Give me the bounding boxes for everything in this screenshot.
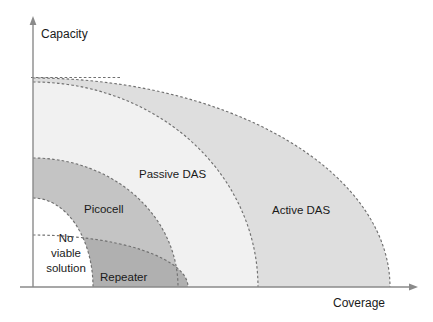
region-label-passive-das: Passive DAS (139, 168, 206, 180)
x-axis-label: Coverage (333, 296, 385, 310)
region-label-no-viable-solution-line2: viable (51, 247, 81, 259)
capacity-coverage-chart: Capacity Coverage Active DAS Passive DAS… (0, 0, 433, 322)
region-label-repeater: Repeater (100, 271, 147, 283)
y-axis-arrowhead (30, 16, 37, 25)
x-axis-arrowhead (409, 284, 418, 291)
region-label-no-viable-solution-line3: solution (46, 262, 86, 274)
chart-container: Capacity Coverage Active DAS Passive DAS… (0, 0, 433, 322)
region-label-active-das: Active DAS (272, 204, 330, 216)
region-label-no-viable-solution-line1: No (59, 232, 74, 244)
y-axis-label: Capacity (41, 27, 88, 41)
region-label-picocell: Picocell (84, 203, 124, 215)
